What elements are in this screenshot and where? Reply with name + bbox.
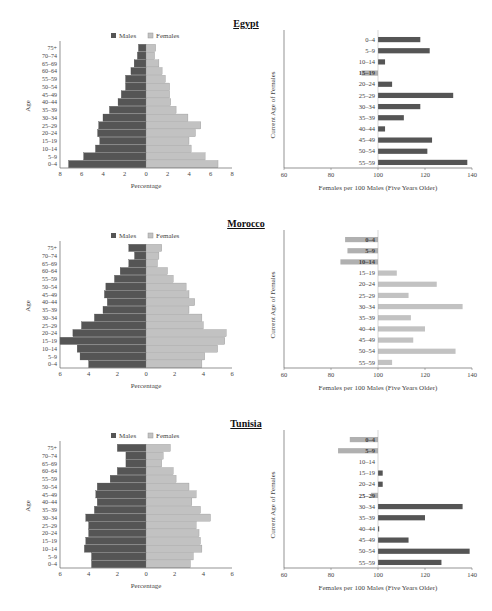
female-bar xyxy=(146,291,189,298)
male-bar xyxy=(117,468,146,475)
age-tick-label: 65–69 xyxy=(42,261,57,267)
females-swatch xyxy=(148,33,153,38)
female-bar xyxy=(146,460,162,467)
male-bar xyxy=(92,561,146,568)
male-bar xyxy=(86,514,146,521)
female-bar xyxy=(146,130,195,137)
ratio-bar xyxy=(378,560,441,565)
x-tick-label: 100 xyxy=(373,571,383,578)
age-tick-label: 10–14 xyxy=(359,458,376,465)
female-bar xyxy=(146,268,168,275)
ratio-bar xyxy=(378,349,456,354)
ratio-bar xyxy=(378,315,411,320)
age-tick-label: 30–34 xyxy=(359,303,376,310)
age-tick-label: 20–24 xyxy=(42,130,57,136)
sex-ratio-chart: 0–45–910–1415–1920–2425–2930–3435–3940–4… xyxy=(269,230,477,392)
male-bar xyxy=(98,130,146,137)
age-tick-label: 15–19 xyxy=(359,69,376,76)
age-tick-label: 30–34 xyxy=(42,115,57,121)
female-bar xyxy=(146,537,200,544)
female-bar xyxy=(146,75,165,82)
age-tick-label: 60–64 xyxy=(42,68,57,74)
ratio-bar xyxy=(378,470,383,475)
males-swatch xyxy=(111,433,116,438)
female-bar xyxy=(146,330,226,337)
male-bar xyxy=(97,483,146,490)
x-tick-label: 2 xyxy=(123,170,126,177)
age-tick-label: 55–59 xyxy=(42,476,57,482)
age-tick-label: 10–14 xyxy=(359,258,376,265)
x-tick-label: 60 xyxy=(281,371,288,378)
age-tick-label: 55–59 xyxy=(359,159,375,166)
legend-males-label: Males xyxy=(119,32,136,40)
x-tick-label: 4 xyxy=(87,370,91,377)
charts-svg: MalesFemales0–45–910–1415–1920–2425–2930… xyxy=(0,0,492,200)
female-bar xyxy=(146,145,191,152)
female-bar xyxy=(146,299,195,306)
age-tick-label: 5–9 xyxy=(365,247,376,254)
age-tick-label: 50–54 xyxy=(359,547,376,554)
male-bar xyxy=(99,122,146,129)
ratio-bar xyxy=(378,293,409,298)
x-tick-label: 6 xyxy=(230,570,234,577)
population-pyramid: MalesFemales0–45–910–1415–1920–2425–2930… xyxy=(24,32,234,190)
age-tick-label: 35–39 xyxy=(42,507,57,513)
male-bar xyxy=(97,499,146,506)
x-axis-label: Females per 100 Males (Five Years Older) xyxy=(319,184,438,192)
legend: MalesFemales xyxy=(111,432,180,440)
x-tick-label: 8 xyxy=(58,170,61,177)
age-tick-label: 30–34 xyxy=(42,315,57,321)
female-bar xyxy=(146,306,189,313)
age-tick-label: 25–29 xyxy=(42,523,57,529)
female-bar xyxy=(146,283,186,290)
females-swatch xyxy=(148,433,153,438)
female-bar xyxy=(146,452,163,459)
x-tick-label: 80 xyxy=(328,371,335,378)
female-bar xyxy=(146,106,176,113)
age-tick-label: 40–44 xyxy=(359,525,376,532)
male-bar xyxy=(110,475,146,482)
age-tick-label: 60–64 xyxy=(42,468,57,474)
x-tick-label: 4 xyxy=(187,170,191,177)
x-tick-label: 4 xyxy=(87,570,91,577)
female-bar xyxy=(146,314,202,321)
male-bar xyxy=(89,361,146,368)
legend-females-label: Females xyxy=(156,232,180,240)
female-bar xyxy=(146,44,156,51)
ratio-bar xyxy=(378,126,385,131)
legend-females-label: Females xyxy=(156,432,180,440)
age-tick-label: 60–64 xyxy=(42,268,57,274)
x-axis-label: Females per 100 Males (Five Years Older) xyxy=(319,584,438,592)
x-tick-label: 140 xyxy=(467,571,477,578)
ratio-bar xyxy=(378,482,383,487)
x-axis-label: Females per 100 Males (Five Years Older) xyxy=(319,384,438,392)
legend: MalesFemales xyxy=(111,232,180,240)
ratio-bar xyxy=(378,326,425,331)
male-bar xyxy=(134,60,146,67)
age-tick-label: 30–34 xyxy=(359,103,376,110)
age-tick-label: 25–29 xyxy=(359,492,376,499)
female-bar xyxy=(146,337,225,344)
male-bar xyxy=(129,244,146,251)
male-bar xyxy=(129,260,146,267)
female-bar xyxy=(146,530,199,537)
x-axis-label: Percentage xyxy=(131,382,162,390)
male-bar xyxy=(100,137,146,144)
age-tick-label: 15–19 xyxy=(42,538,57,544)
male-bar xyxy=(84,153,146,160)
age-tick-label: 35–39 xyxy=(359,514,375,521)
panel-morocco: MoroccoMalesFemales0–45–910–1415–1920–24… xyxy=(0,200,492,400)
age-tick-label: 45–49 xyxy=(42,92,57,98)
x-tick-label: 100 xyxy=(373,171,383,178)
female-bar xyxy=(146,83,170,90)
age-tick-label: 45–49 xyxy=(359,136,375,143)
ratio-bar xyxy=(378,137,432,142)
x-tick-label: 4 xyxy=(202,570,206,577)
ratio-bar xyxy=(378,37,420,42)
age-tick-label: 15–19 xyxy=(359,469,375,476)
ratio-bar xyxy=(378,515,425,520)
male-bar xyxy=(60,337,146,344)
male-bar xyxy=(126,75,146,82)
female-bar xyxy=(146,260,157,267)
ratio-bar xyxy=(378,537,409,542)
